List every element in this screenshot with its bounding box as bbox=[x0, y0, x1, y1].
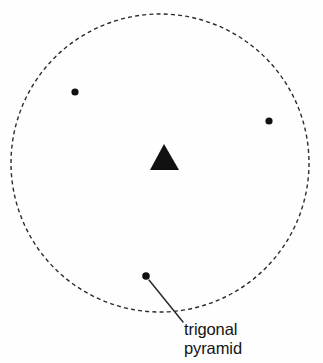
trigonal-pyramid-label-line-2: pyramid bbox=[184, 339, 242, 358]
dot-bottom bbox=[142, 272, 150, 280]
diagram-background bbox=[0, 0, 323, 363]
dot-right bbox=[265, 117, 272, 124]
trigonal-pyramid-label-line-1: trigonal bbox=[184, 320, 242, 339]
trigonal-pyramid-diagram bbox=[0, 0, 323, 363]
trigonal-pyramid-label: trigonal pyramid bbox=[184, 320, 242, 358]
dot-upper-left bbox=[71, 88, 78, 95]
